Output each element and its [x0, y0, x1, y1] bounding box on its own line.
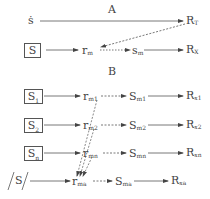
node-sm2: Sm2 [129, 120, 146, 132]
node-smn: Smn [129, 148, 146, 160]
node-rm2: rm2 [83, 120, 98, 132]
node-sma: Sma [115, 176, 132, 188]
node-s-slashed: S [15, 175, 23, 186]
node-s-dot: ṡ [28, 15, 34, 26]
section-a-title: A [108, 3, 116, 16]
node-rm1: rm1 [83, 91, 98, 103]
node-rxn: Rxn [186, 147, 202, 159]
node-rx: RX [186, 44, 199, 56]
node-sn-box: Sn [24, 146, 43, 161]
node-s2-box: S2 [24, 118, 43, 133]
node-rx1: Rx1 [186, 90, 202, 102]
node-sm: sm [132, 45, 143, 57]
node-s1-box: S1 [24, 89, 43, 104]
node-rm: rm [82, 45, 93, 57]
section-b-title: B [108, 65, 116, 78]
node-rx2: Rx2 [186, 119, 202, 131]
node-rma: rma [72, 176, 87, 188]
node-rxa: Rxa [171, 175, 186, 187]
node-s-box: S [24, 43, 41, 58]
arrow-rt-to-rm [101, 24, 185, 47]
node-rmn: rmn [83, 148, 98, 160]
node-rt: RT [186, 15, 198, 27]
arrow-rm1-to-rma [77, 100, 97, 176]
node-sm1: Sm1 [129, 91, 146, 103]
